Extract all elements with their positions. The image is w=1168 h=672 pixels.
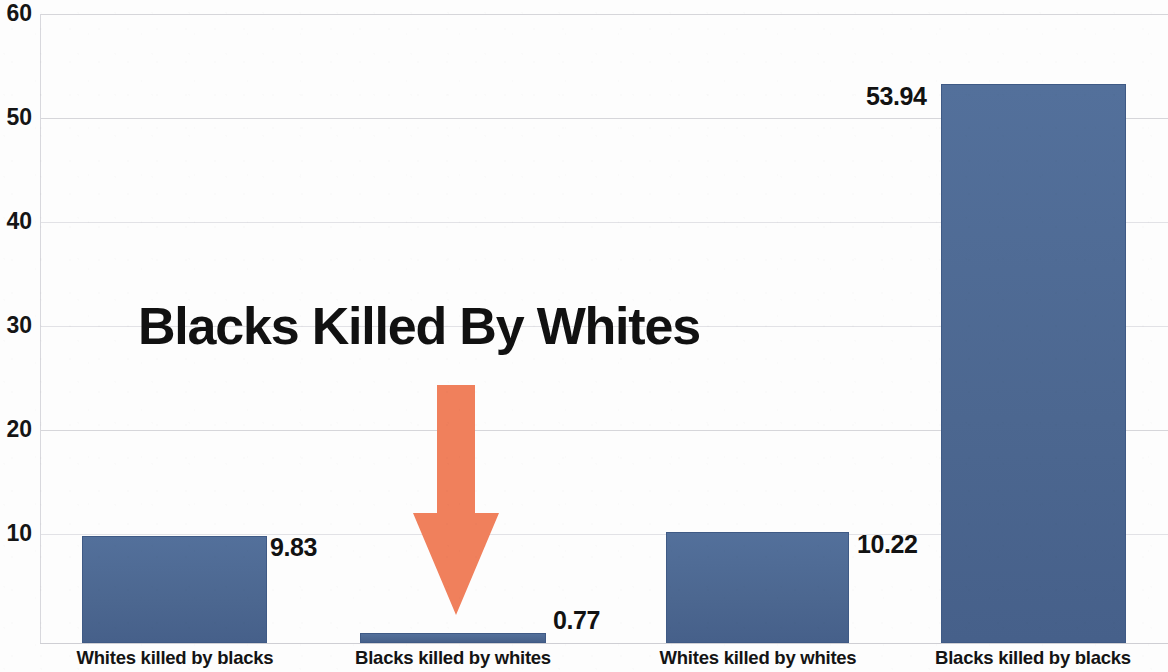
y-tick-10: 10 (0, 522, 32, 545)
bar-whites-killed-by-blacks[interactable] (82, 536, 267, 643)
bar-blacks-killed-by-whites[interactable] (360, 633, 546, 643)
overlay-headline: Blacks Killed By Whites (138, 300, 700, 352)
y-tick-60: 60 (0, 2, 32, 25)
x-axis-line (40, 643, 1168, 644)
y-axis-line (40, 14, 41, 643)
y-tick-20: 20 (0, 418, 32, 441)
y-tick-40: 40 (0, 210, 32, 233)
y-tick-50: 50 (0, 106, 32, 129)
category-label-blacks-killed-by-whites: Blacks killed by whites (344, 648, 562, 668)
bar-value-9-83: 9.83 (270, 535, 317, 560)
y-tick-30: 30 (0, 314, 32, 337)
bar-value-53-94: 53.94 (866, 84, 927, 109)
category-label-blacks-killed-by-blacks: Blacks killed by blacks (924, 648, 1142, 668)
bar-blacks-killed-by-blacks[interactable] (941, 84, 1126, 643)
bar-value-10-22: 10.22 (857, 532, 918, 557)
bar-value-0-77: 0.77 (553, 608, 600, 633)
category-label-whites-killed-by-blacks: Whites killed by blacks (66, 648, 284, 668)
orange-down-arrow-icon (413, 385, 499, 615)
bar-whites-killed-by-whites[interactable] (666, 532, 849, 643)
category-label-whites-killed-by-whites: Whites killed by whites (649, 648, 867, 668)
gridline-60 (40, 14, 1168, 15)
chart-page: 60 50 40 30 20 10 9.83 0.77 10.22 53.94 … (0, 0, 1168, 672)
